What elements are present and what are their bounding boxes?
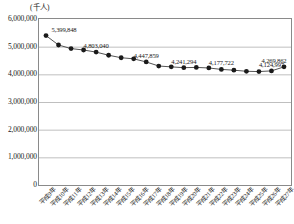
data-point-label: 5,399,848 <box>51 26 76 33</box>
data-point-marker <box>194 65 199 70</box>
y-axis-tick-label: 3,000,000 <box>1 98 37 106</box>
data-point-marker <box>257 69 262 74</box>
data-point-marker <box>156 64 161 69</box>
data-point-label: 4,241,294 <box>171 58 196 65</box>
data-point-marker <box>181 65 186 70</box>
data-point-marker <box>219 67 224 72</box>
y-axis-tick-label: 5,000,000 <box>1 43 37 51</box>
y-axis-tick-label: 1,000,000 <box>1 153 37 161</box>
data-point-marker <box>169 64 174 69</box>
plot-area: 5,399,8484,803,0404,447,8594,241,2944,17… <box>39 19 291 185</box>
data-point-marker <box>56 43 61 48</box>
chart-figure: (千人) 6,000,0005,000,0004,000,0003,000,00… <box>0 0 294 224</box>
y-axis-tick-label: 2,000,000 <box>1 126 37 134</box>
data-point-marker <box>144 60 149 65</box>
y-axis: 6,000,0005,000,0004,000,0003,000,0002,00… <box>0 0 37 224</box>
data-point-marker <box>119 55 124 60</box>
data-point-label: 4,447,859 <box>134 52 159 59</box>
data-point-marker <box>231 68 236 73</box>
y-axis-tick-label: 0 <box>1 181 37 189</box>
chart-canvas <box>39 19 291 185</box>
y-axis-tick-label: 6,000,000 <box>1 15 37 23</box>
data-point-marker <box>69 46 74 51</box>
data-point-marker <box>44 33 49 38</box>
data-point-marker <box>244 69 249 74</box>
data-series-line <box>46 36 284 72</box>
data-point-label: 4,269,862 <box>261 57 286 64</box>
x-axis: 平成9年平成10年平成11年平成12年平成13年平成14年平成15年平成16年平… <box>39 186 291 224</box>
data-point-marker <box>94 50 99 55</box>
data-point-marker <box>269 68 274 73</box>
data-point-label: 4,177,722 <box>209 59 234 66</box>
data-point-label: 4,803,040 <box>84 42 109 49</box>
y-axis-tick-label: 4,000,000 <box>1 70 37 78</box>
data-point-marker <box>106 53 111 58</box>
